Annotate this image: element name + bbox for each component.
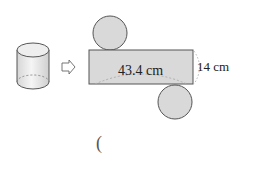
bottom-circle xyxy=(158,85,192,119)
answer-paren: ( xyxy=(96,133,102,154)
rectangle-height-label: 14 cm xyxy=(197,59,229,75)
cylinder-icon xyxy=(17,43,49,89)
right-arrow-icon xyxy=(62,60,75,74)
cylinder-net-diagram xyxy=(0,0,260,169)
rectangle-width-label: 43.4 cm xyxy=(118,63,163,79)
top-circle xyxy=(93,16,127,50)
